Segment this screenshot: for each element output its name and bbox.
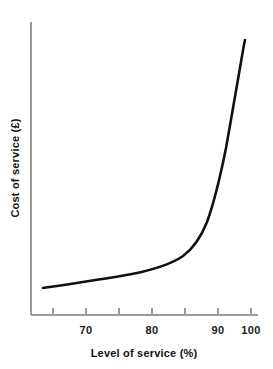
- x-tick-label: 80: [146, 324, 159, 336]
- x-tick-label: 100: [241, 324, 260, 336]
- chart-canvas: 70 80 90 100 Level of service (%) Cost o…: [0, 0, 273, 369]
- data-curve: [43, 40, 245, 288]
- x-axis-ticks: [53, 308, 251, 315]
- x-tick-label: 70: [80, 324, 93, 336]
- chart-figure: 70 80 90 100 Level of service (%) Cost o…: [0, 0, 273, 369]
- x-axis-title: Level of service (%): [91, 347, 198, 359]
- y-axis-title: Cost of service (£): [9, 118, 21, 217]
- x-axis-tick-labels: 70 80 90 100: [80, 324, 261, 336]
- x-tick-label: 90: [212, 324, 225, 336]
